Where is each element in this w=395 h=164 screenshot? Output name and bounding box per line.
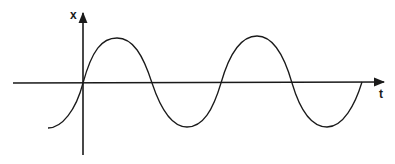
t-axis bbox=[13, 82, 384, 83]
t-axis-label: t bbox=[379, 87, 383, 101]
x-axis-label: x bbox=[70, 8, 77, 22]
sine-wave-diagram: x t bbox=[0, 0, 395, 164]
